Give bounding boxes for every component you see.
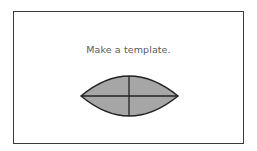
lens-template-shape [0,0,257,151]
